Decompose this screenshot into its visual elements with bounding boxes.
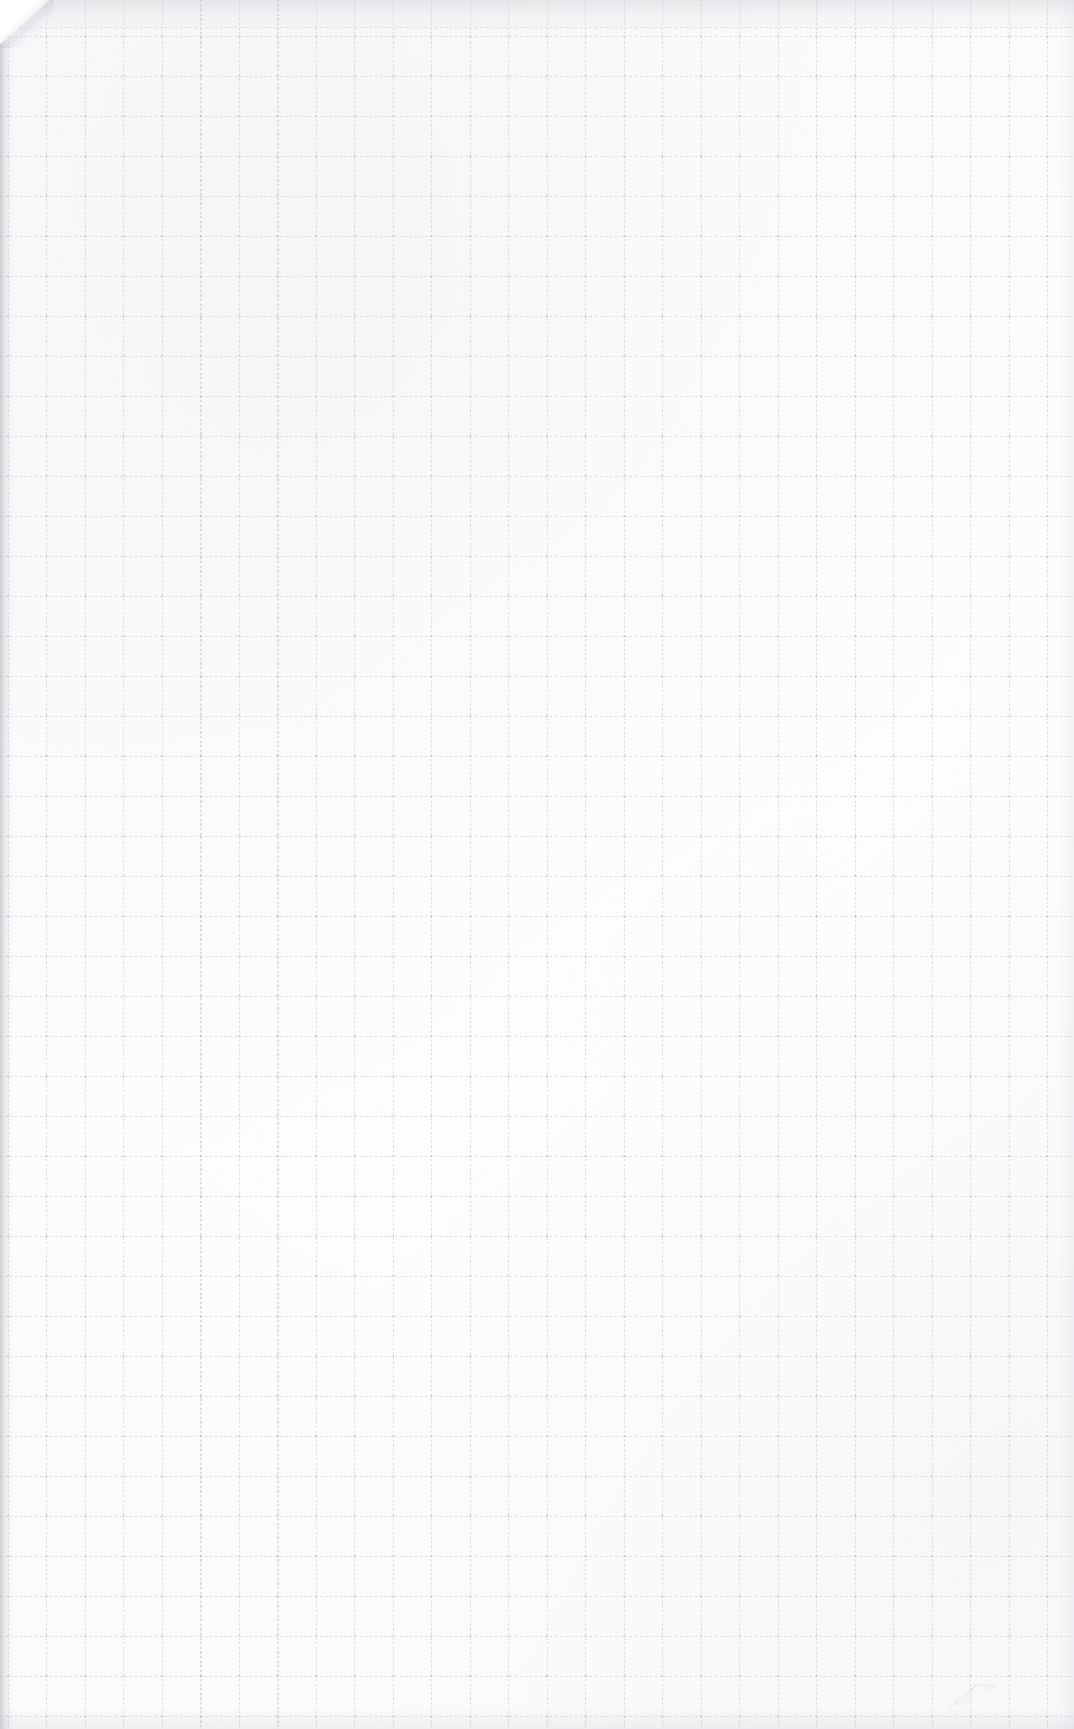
- page-content-area: [0, 0, 1074, 1729]
- scanned-page: [0, 0, 1074, 1729]
